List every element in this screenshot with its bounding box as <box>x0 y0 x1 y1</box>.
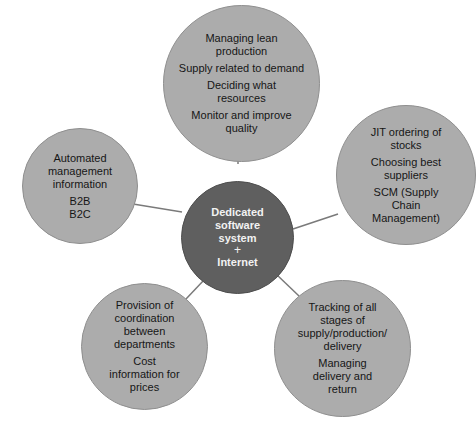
text-line: SCM (Supply <box>372 186 440 199</box>
node-bottom-left-item: Cost information for prices <box>109 355 179 394</box>
text-line: B2C <box>69 208 90 221</box>
text-line: departments <box>114 338 175 351</box>
text-line: B2B <box>69 195 90 208</box>
text-line: Choosing best <box>371 156 441 169</box>
text-line: delivery and <box>313 370 372 383</box>
node-right-item: SCM (Supply Chain Management) <box>372 186 440 225</box>
plus-sign: + <box>234 245 241 256</box>
text-line: delivery <box>298 340 387 353</box>
node-bottom-right-item: Tracking of all stages of supply/product… <box>298 301 387 353</box>
text-line: information for <box>109 368 179 381</box>
text-line: JIT ordering of <box>371 126 442 139</box>
node-right-item: Choosing best suppliers <box>371 156 441 182</box>
node-left: Automated management information B2B B2C <box>22 128 138 244</box>
text-line: stocks <box>371 139 442 152</box>
text-line: coordination <box>114 312 175 325</box>
node-right: JIT ordering of stocks Choosing best sup… <box>336 105 476 245</box>
connector-bottom-right <box>276 274 299 296</box>
node-bottom-right-item: Managing delivery and return <box>313 357 372 396</box>
text-line: suppliers <box>371 169 441 182</box>
text-line: prices <box>109 381 179 394</box>
text-line: management <box>48 165 112 178</box>
text-line: Automated <box>48 152 112 165</box>
node-top-item: Supply related to demand <box>179 62 304 75</box>
text-line: Supply related to demand <box>179 62 304 75</box>
node-top-item: Deciding what resources <box>207 79 276 105</box>
node-top: Managing lean production Supply related … <box>163 5 320 162</box>
text-line: Management) <box>372 212 440 225</box>
node-top-item: Monitor and improve quality <box>191 109 291 135</box>
text-line: return <box>313 383 372 396</box>
node-left-item: B2B B2C <box>69 195 90 221</box>
node-right-item: JIT ordering of stocks <box>371 126 442 152</box>
text-line: information <box>48 178 112 191</box>
connector-right <box>293 214 338 229</box>
node-left-item: Automated management information <box>48 152 112 191</box>
node-center-hub: Dedicated software system + Internet <box>181 181 294 294</box>
text-line: Dedicated <box>211 206 264 219</box>
text-line: quality <box>191 122 291 135</box>
text-line: Monitor and improve <box>191 109 291 122</box>
text-line: stages of <box>298 314 387 327</box>
node-bottom-right: Tracking of all stages of supply/product… <box>274 280 411 417</box>
text-line: resources <box>207 92 276 105</box>
text-line: Provision of <box>114 299 175 312</box>
text-line: Tracking of all <box>298 301 387 314</box>
text-line: Managing <box>313 357 372 370</box>
text-line: production <box>205 45 277 58</box>
text-line: Chain <box>372 199 440 212</box>
connector-left <box>133 204 182 212</box>
node-bottom-left: Provision of coordination between depart… <box>81 283 208 410</box>
node-top-item: Managing lean production <box>205 32 277 58</box>
node-bottom-left-item: Provision of coordination between depart… <box>114 299 175 351</box>
text-line: Cost <box>109 355 179 368</box>
text-line: Managing lean <box>205 32 277 45</box>
text-line: supply/production/ <box>298 327 387 340</box>
text-line: software <box>215 219 260 232</box>
text-line: Internet <box>217 256 257 269</box>
connector-bottom-left <box>186 280 204 299</box>
text-line: between <box>114 325 175 338</box>
text-line: Deciding what <box>207 79 276 92</box>
